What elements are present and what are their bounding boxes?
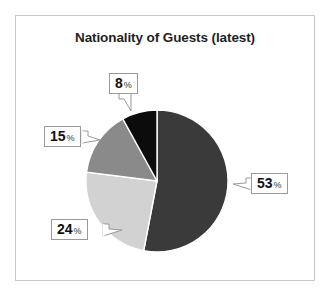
callout-label-24[interactable]: 24% — [51, 219, 88, 240]
chart-figure: Nationality of Guests (latest) 8% — [0, 0, 331, 297]
callout-percent-24: % — [74, 222, 82, 241]
callout-label-53[interactable]: 53% — [251, 173, 288, 194]
callout-value-15: 15 — [50, 127, 66, 146]
callout-tail-53 — [233, 178, 252, 190]
callout-tail-15 — [82, 131, 100, 143]
callout-value-8: 8 — [115, 74, 123, 93]
callout-percent-53: % — [274, 176, 282, 195]
callout-tail-8 — [119, 93, 131, 112]
callout-label-15[interactable]: 15% — [44, 126, 81, 147]
callout-value-53: 53 — [257, 174, 273, 193]
callout-percent-15: % — [67, 129, 75, 148]
callout-percent-8: % — [124, 76, 132, 95]
pie-slice-24[interactable] — [86, 172, 157, 251]
pie-chart — [0, 0, 331, 297]
callout-label-8[interactable]: 8% — [109, 73, 138, 94]
callout-value-24: 24 — [57, 220, 73, 239]
